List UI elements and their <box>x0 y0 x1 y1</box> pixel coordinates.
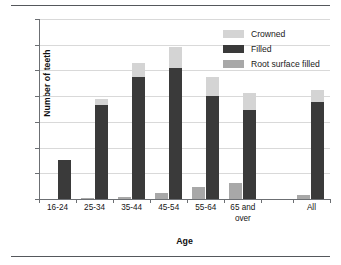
bar-stack-filled-crowned <box>58 160 71 199</box>
bar-segment-filled <box>206 96 219 199</box>
y-axis-line <box>39 19 40 200</box>
bar-stack-filled-crowned <box>132 63 145 199</box>
bar-segment-filled <box>169 68 182 199</box>
bar-root-surface-filled <box>155 193 168 199</box>
bar-stack-filled-crowned <box>169 47 182 199</box>
y-tick-mark <box>35 173 39 174</box>
x-tick-label: 55-64 <box>187 203 224 214</box>
bar-stack-filled-crowned <box>311 90 324 199</box>
bar-segment-crowned <box>311 90 324 102</box>
bar-root-surface-filled <box>229 183 242 199</box>
legend-item-root-surface-filled: Root surface filled <box>223 56 320 71</box>
x-tick-mark <box>330 199 331 203</box>
x-tick-label: All <box>293 203 330 214</box>
bar-segment-filled <box>132 77 145 199</box>
y-tick-mark <box>35 148 39 149</box>
bar-stack-filled-crowned <box>243 93 256 199</box>
x-tick-label: 16-24 <box>39 203 76 214</box>
bottom-divider-rule <box>11 256 330 257</box>
gridline <box>39 96 330 97</box>
legend-item-filled: Filled <box>223 41 320 56</box>
legend-swatch-filled <box>223 45 244 53</box>
bar-segment-crowned <box>169 47 182 68</box>
bar-root-surface-filled <box>192 187 205 199</box>
top-divider-rule <box>11 5 330 6</box>
bar-segment-crowned <box>243 93 256 110</box>
legend-swatch-crowned <box>223 30 244 38</box>
x-tick-label: 45-54 <box>150 203 187 214</box>
bar-stack-filled-crowned <box>95 99 108 199</box>
bar-segment-filled <box>95 105 108 199</box>
bar-root-surface-filled <box>81 198 94 199</box>
x-tick-label: 65 and over <box>224 203 261 224</box>
gridline <box>39 19 330 20</box>
bar-segment-crowned <box>132 63 145 77</box>
bar-segment-crowned <box>206 77 219 96</box>
y-tick-mark <box>35 45 39 46</box>
legend-item-crowned: Crowned <box>223 26 320 41</box>
bar-segment-filled <box>243 110 256 199</box>
y-tick-mark <box>35 19 39 20</box>
x-axis-line <box>39 199 330 200</box>
bar-stack-filled-crowned <box>206 77 219 199</box>
x-tick-label: 35-44 <box>113 203 150 214</box>
gridline <box>39 122 330 123</box>
bar-root-surface-filled <box>297 195 310 199</box>
legend-label-filled: Filled <box>251 44 272 54</box>
bar-segment-filled <box>311 102 324 199</box>
y-tick-mark <box>35 122 39 123</box>
figure-chart-number-of-teeth-by-age: Number of teeth 02468101214 16-2425-3435… <box>0 0 341 265</box>
x-tick-label: 25-34 <box>76 203 113 214</box>
x-tick-mark <box>261 199 262 203</box>
bar-root-surface-filled <box>118 197 131 199</box>
gridline <box>39 148 330 149</box>
y-tick-mark <box>35 96 39 97</box>
legend-swatch-root-surface-filled <box>223 60 244 68</box>
legend-label-crowned: Crowned <box>251 29 285 39</box>
bar-segment-filled <box>58 160 71 199</box>
y-tick-mark <box>35 70 39 71</box>
legend-label-root-surface-filled: Root surface filled <box>251 59 320 69</box>
gridline <box>39 173 330 174</box>
legend: Crowned Filled Root surface filled <box>223 26 320 71</box>
x-axis-title: Age <box>39 236 330 246</box>
